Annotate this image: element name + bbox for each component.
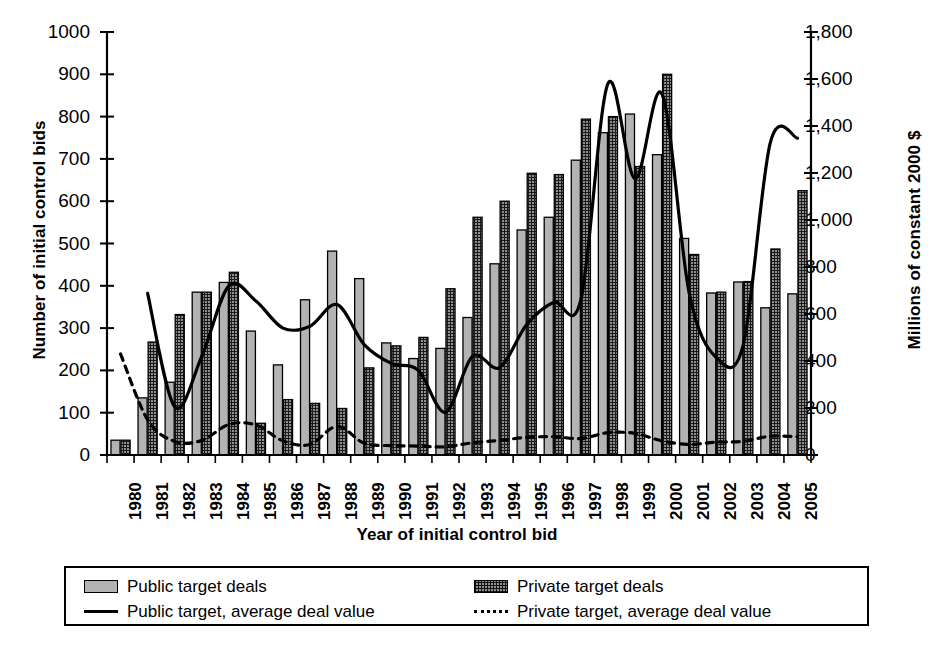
legend-label: Private target, average deal value	[517, 603, 771, 620]
bar-public	[653, 155, 662, 455]
y-tick-label-right: 400	[805, 351, 837, 370]
line-dotted-icon	[474, 610, 508, 613]
line-public-average-deal-value	[148, 81, 798, 412]
bar-public	[598, 133, 607, 455]
y-tick-label-left: 700	[10, 149, 90, 168]
bar-private	[256, 423, 265, 455]
y-tick-label-right: 800	[805, 257, 837, 276]
y-tick-label-right: 1,200	[805, 163, 853, 182]
bar-public	[192, 292, 201, 455]
line-solid-icon	[84, 610, 118, 613]
x-axis-ticks: 1980198119821983198419851986198719881989…	[107, 458, 811, 528]
y-tick-label-left: 300	[10, 318, 90, 337]
legend-label: Public target deals	[127, 578, 267, 595]
y-tick-label-right: 200	[805, 398, 837, 417]
bar-private	[284, 400, 293, 455]
bar-public	[355, 279, 364, 455]
legend-item-public-target-deals: Public target deals	[84, 573, 267, 599]
bar-private	[744, 282, 753, 455]
legend-item-private-target-deals: Private target deals	[474, 573, 663, 599]
y-axis-right-ticks: 02004006008001,0001,2001,4001,6001,800	[805, 0, 885, 470]
bar-public	[734, 282, 743, 455]
bar-private	[202, 292, 211, 455]
y-tick-label-left: 600	[10, 191, 90, 210]
bar-private	[500, 201, 509, 455]
bar-private	[419, 337, 428, 455]
bar-public	[138, 398, 147, 455]
bar-private	[446, 289, 455, 455]
bar-private	[717, 292, 726, 455]
swatch-public-bar-icon	[84, 580, 118, 593]
bar-public	[436, 348, 445, 455]
bar-public	[219, 282, 228, 455]
bar-public	[328, 251, 337, 455]
bars-private-target-deals	[121, 74, 807, 455]
y-tick-label-right: 1,000	[805, 210, 853, 229]
bar-private	[121, 440, 130, 455]
y-tick-label-right: 1,800	[805, 22, 853, 41]
bar-public	[707, 293, 716, 455]
legend-item-private-average-deal-value: Private target, average deal value	[474, 598, 771, 624]
bar-public	[111, 440, 120, 455]
line-private-average-deal-value	[121, 354, 798, 447]
swatch-private-bar-icon	[474, 580, 508, 593]
bar-public	[165, 382, 174, 455]
y-tick-label-left: 500	[10, 234, 90, 253]
y-tick-label-left: 100	[10, 403, 90, 422]
bar-private	[608, 117, 617, 455]
y-tick-label-right: 1,600	[805, 69, 853, 88]
bar-private	[527, 173, 536, 455]
bar-private	[311, 403, 320, 455]
bar-private	[663, 74, 672, 455]
bar-public	[788, 294, 797, 455]
y-tick-label-right: 1,400	[805, 116, 853, 135]
bar-private	[338, 408, 347, 455]
bar-public	[382, 343, 391, 455]
bar-public	[490, 264, 499, 455]
bar-private	[690, 255, 699, 456]
bar-private	[771, 249, 780, 455]
bar-private	[175, 315, 184, 455]
bar-public	[544, 217, 553, 455]
legend-label: Public target, average deal value	[127, 603, 375, 620]
bar-public	[409, 359, 418, 455]
y-axis-right-title: Millions of constant 2000 $	[905, 25, 925, 455]
bar-public	[273, 365, 282, 455]
bar-private	[636, 167, 645, 455]
y-tick-label-left: 200	[10, 360, 90, 379]
y-tick-label-left: 1000	[10, 22, 90, 41]
axis-lines	[100, 32, 818, 463]
y-tick-label-right: 600	[805, 304, 837, 323]
bar-public	[463, 318, 472, 455]
chart-figure: Number of initial control bids Millions …	[0, 0, 933, 657]
y-tick-label-left: 400	[10, 276, 90, 295]
x-axis-title: Year of initial control bid	[107, 525, 807, 545]
bars-public-target-deals	[111, 114, 797, 455]
bar-public	[301, 300, 310, 455]
bar-private	[392, 346, 401, 455]
bar-private	[581, 119, 590, 455]
bar-private	[365, 368, 374, 455]
bar-private	[229, 272, 238, 455]
legend-label: Private target deals	[517, 578, 663, 595]
plot-area	[0, 0, 933, 657]
y-tick-label-left: 0	[10, 445, 90, 464]
bar-public	[680, 238, 689, 455]
y-tick-label-left: 900	[10, 64, 90, 83]
legend: Public target deals Private target deals…	[64, 566, 869, 626]
bar-public	[625, 114, 634, 455]
bar-public	[246, 331, 255, 455]
bar-public	[517, 230, 526, 455]
bar-private	[473, 217, 482, 455]
bar-public	[761, 308, 770, 455]
y-axis-left-ticks: 01002003004005006007008009001000	[10, 0, 90, 470]
bar-private	[554, 175, 563, 455]
bar-private	[148, 342, 157, 455]
y-tick-label-left: 800	[10, 107, 90, 126]
bar-public	[571, 160, 580, 455]
legend-item-public-average-deal-value: Public target, average deal value	[84, 598, 375, 624]
